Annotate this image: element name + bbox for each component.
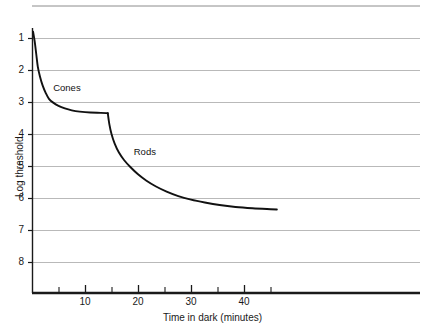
curve-cones — [33, 32, 108, 114]
annotation-cones: Cones — [53, 83, 80, 93]
y-tick-label: 8 — [10, 257, 24, 267]
dark-adaptation-chart: 87654321 10203040 ConesRods Log threshol… — [0, 0, 425, 330]
x-tick-label: 10 — [73, 297, 97, 307]
x-tick-label: 20 — [126, 297, 150, 307]
y-tick-label: 2 — [10, 65, 24, 75]
chart-canvas — [0, 0, 425, 330]
gridlines — [32, 39, 420, 263]
y-axis-title: Log threshold — [15, 136, 25, 197]
y-axis-tick-marks — [28, 39, 32, 263]
y-tick-label: 7 — [10, 225, 24, 235]
y-tick-label: 1 — [10, 33, 24, 43]
y-tick-label: 3 — [10, 97, 24, 107]
x-tick-label: 40 — [232, 297, 256, 307]
x-axis-title: Time in dark (minutes) — [0, 313, 425, 323]
x-axis-tick-marks — [59, 285, 271, 292]
x-tick-label: 30 — [179, 297, 203, 307]
annotation-rods: Rods — [134, 147, 156, 157]
curve-rods — [108, 113, 277, 209]
data-curves — [33, 32, 277, 210]
